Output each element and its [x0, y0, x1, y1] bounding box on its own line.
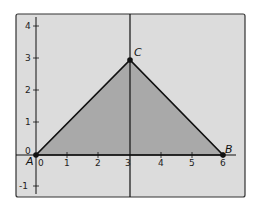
y-tick-label: 1 — [25, 117, 31, 127]
x-tick-label: 6 — [220, 158, 226, 168]
point-c-label: C — [134, 46, 142, 59]
y-tick-label: 4 — [25, 21, 31, 31]
x-tick-label: 3 — [125, 158, 131, 168]
y-tick-label: 3 — [25, 53, 31, 63]
point-b-label: B — [225, 143, 233, 156]
x-tick-label: 0 — [38, 158, 44, 168]
point-a-label: A — [25, 155, 34, 168]
point-a — [33, 152, 39, 158]
x-tick-label: 2 — [95, 158, 101, 168]
y-tick-label: 2 — [25, 85, 31, 95]
x-tick-label: 5 — [189, 158, 195, 168]
coordinate-plane-diagram: 0 1 2 3 4 5 6 -1 0 1 2 3 4 A B C — [0, 0, 255, 211]
y-tick-label: -1 — [19, 181, 28, 191]
x-tick-label: 4 — [158, 158, 164, 168]
point-c — [127, 57, 133, 63]
x-tick-label: 1 — [64, 158, 70, 168]
